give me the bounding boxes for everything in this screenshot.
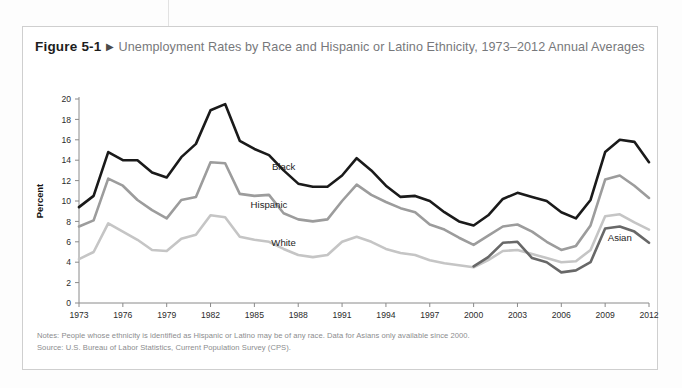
figure-card: Figure 5-1▶Unemployment Rates by Race an…	[22, 26, 658, 370]
x-tick-label: 1994	[376, 310, 395, 320]
x-tick-label: 2009	[596, 310, 615, 320]
figure-number: Figure 5-1	[35, 39, 102, 54]
page-background: Figure 5-1▶Unemployment Rates by Race an…	[0, 0, 682, 388]
figure-header: Figure 5-1▶Unemployment Rates by Race an…	[35, 35, 647, 56]
series-label-white: White	[271, 237, 296, 248]
series-line-white	[79, 214, 649, 267]
page-gutter-line	[168, 0, 169, 26]
y-tick-label: 16	[61, 135, 71, 145]
series-label-hispanic: Hispanic	[251, 199, 288, 210]
figure-arrow-icon: ▶	[106, 40, 114, 53]
series-lines	[79, 104, 649, 272]
series-labels: BlackHispanicWhiteAsian	[251, 161, 632, 247]
y-tick-label: 2	[66, 278, 71, 288]
source-text: Source: U.S. Bureau of Labor Statistics,…	[37, 342, 637, 354]
x-axis: 1973197619791982198519881991199419972000…	[69, 303, 658, 320]
x-tick-label: 1973	[69, 310, 88, 320]
unemployment-line-chart: 02468101214161820 1973197619791982198519…	[23, 89, 659, 349]
y-axis-title: Percent	[34, 184, 45, 218]
chart-plot-area: 02468101214161820 1973197619791982198519…	[23, 89, 659, 349]
x-tick-label: 1988	[289, 310, 308, 320]
x-tick-label: 1997	[420, 310, 439, 320]
y-tick-label: 14	[61, 155, 71, 165]
y-tick-label: 0	[66, 298, 71, 308]
y-tick-label: 10	[61, 196, 71, 206]
notes-text: Notes: People whose ethnicity is identif…	[37, 330, 637, 342]
series-label-black: Black	[272, 161, 296, 172]
x-tick-label: 1991	[333, 310, 352, 320]
y-tick-label: 4	[66, 257, 71, 267]
x-tick-label: 1976	[113, 310, 132, 320]
series-label-asian: Asian	[608, 232, 632, 243]
figure-notes: Notes: People whose ethnicity is identif…	[37, 330, 637, 355]
y-tick-label: 20	[61, 94, 71, 104]
x-tick-label: 1979	[157, 310, 176, 320]
series-line-black	[79, 104, 649, 225]
x-tick-label: 1982	[201, 310, 220, 320]
figure-title: Unemployment Rates by Race and Hispanic …	[119, 40, 645, 54]
series-line-hispanic	[79, 162, 649, 250]
x-tick-label: 2003	[508, 310, 527, 320]
x-tick-label: 1985	[245, 310, 264, 320]
x-tick-label: 2012	[639, 310, 658, 320]
y-axis: 02468101214161820	[61, 94, 79, 308]
y-tick-label: 12	[61, 176, 71, 186]
x-tick-label: 2000	[464, 310, 483, 320]
y-axis-label: Percent	[34, 184, 45, 218]
y-tick-label: 8	[66, 217, 71, 227]
x-tick-label: 2006	[552, 310, 571, 320]
y-tick-label: 6	[66, 237, 71, 247]
y-tick-label: 18	[61, 115, 71, 125]
